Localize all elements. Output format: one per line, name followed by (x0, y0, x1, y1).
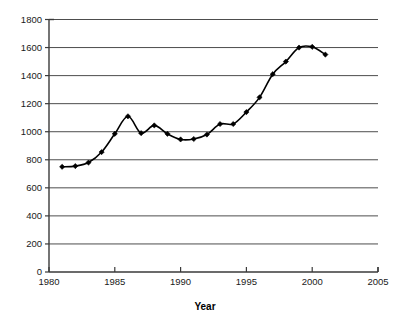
y-axis-tick-labels: 020040060080010001200140016001800 (21, 14, 42, 278)
line-chart: 020040060080010001200140016001800 198019… (0, 0, 410, 324)
x-tick-label: 1985 (104, 276, 125, 287)
y-tick-label: 600 (26, 182, 42, 193)
y-tick-label: 1000 (21, 126, 42, 137)
x-tick-label: 2000 (302, 276, 323, 287)
axis-lines (49, 20, 378, 273)
data-markers (60, 44, 328, 169)
data-point-marker (152, 123, 157, 128)
gridlines (49, 20, 378, 244)
x-tick-label: 1990 (170, 276, 191, 287)
x-tick-label: 2005 (367, 276, 388, 287)
x-axis-ticks (49, 267, 378, 272)
chart-canvas: 020040060080010001200140016001800 198019… (0, 0, 410, 324)
y-tick-label: 200 (26, 238, 42, 249)
y-tick-label: 1600 (21, 42, 42, 53)
data-point-marker (310, 44, 315, 49)
y-tick-label: 800 (26, 154, 42, 165)
x-tick-label: 1980 (38, 276, 59, 287)
y-tick-label: 1800 (21, 14, 42, 25)
x-axis-tick-labels: 198019851990199520002005 (38, 276, 388, 287)
y-tick-label: 1200 (21, 98, 42, 109)
data-point-marker (60, 164, 65, 169)
data-point-marker (191, 136, 196, 141)
y-tick-label: 1400 (21, 70, 42, 81)
y-tick-label: 400 (26, 210, 42, 221)
x-tick-label: 1995 (236, 276, 257, 287)
data-point-marker (73, 163, 78, 168)
x-axis-title: Year (194, 301, 215, 312)
data-point-marker (178, 137, 183, 142)
